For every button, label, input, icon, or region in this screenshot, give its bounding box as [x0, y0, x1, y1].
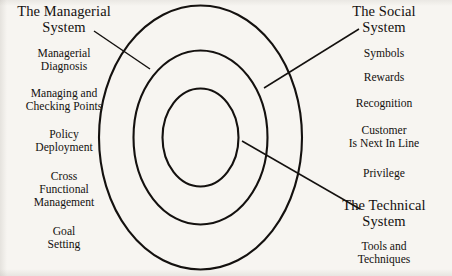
heading-social-system-line1: The Social — [318, 4, 450, 20]
item-policy-deployment-line1: Policy — [0, 128, 130, 141]
heading-technical-system-line1: The Technical — [318, 198, 450, 214]
item-goal-setting-line1: Goal — [0, 225, 130, 238]
middle-ring — [134, 51, 268, 225]
item-privilege-line1: Privilege — [318, 167, 450, 180]
item-privilege: Privilege — [318, 167, 450, 180]
diagram-canvas: The Managerial System Managerial Diagnos… — [0, 0, 452, 276]
item-customer-is-next-in-line: Customer Is Next In Line — [318, 124, 450, 150]
heading-managerial-system-line1: The Managerial — [0, 4, 130, 20]
item-managerial-diagnosis-line1: Managerial — [0, 47, 130, 60]
item-policy-deployment: Policy Deployment — [0, 128, 130, 154]
item-tools-and-techniques-line1: Tools and — [318, 240, 450, 253]
item-goal-setting-line2: Setting — [0, 238, 130, 251]
item-cross-functional-management-line1: Cross — [0, 170, 130, 183]
heading-social-system: The Social System — [318, 4, 450, 35]
heading-social-system-line2: System — [318, 20, 450, 36]
item-managerial-diagnosis: Managerial Diagnosis — [0, 47, 130, 73]
inner-ring — [163, 89, 239, 187]
item-rewards-line1: Rewards — [318, 71, 450, 84]
item-customer-is-next-in-line-line1: Customer — [318, 124, 450, 137]
item-policy-deployment-line2: Deployment — [0, 141, 130, 154]
item-managing-and-checking-points: Managing and Checking Points — [0, 87, 130, 113]
heading-managerial-system-line2: System — [0, 20, 130, 36]
item-recognition-line1: Recognition — [318, 97, 450, 110]
item-symbols: Symbols — [318, 47, 450, 60]
item-cross-functional-management: Cross Functional Management — [0, 170, 130, 209]
item-customer-is-next-in-line-line2: Is Next In Line — [318, 137, 450, 150]
item-recognition: Recognition — [318, 97, 450, 110]
item-managing-and-checking-points-line2: Checking Points — [0, 100, 130, 113]
item-tools-and-techniques-line2: Techniques — [318, 253, 450, 266]
item-cross-functional-management-line2: Functional — [0, 183, 130, 196]
heading-managerial-system: The Managerial System — [0, 4, 130, 35]
item-symbols-line1: Symbols — [318, 47, 450, 60]
item-tools-and-techniques: Tools and Techniques — [318, 240, 450, 266]
item-cross-functional-management-line3: Management — [0, 196, 130, 209]
heading-technical-system: The Technical System — [318, 198, 450, 229]
item-managerial-diagnosis-line2: Diagnosis — [0, 60, 130, 73]
item-goal-setting: Goal Setting — [0, 225, 130, 251]
item-managing-and-checking-points-line1: Managing and — [0, 87, 130, 100]
heading-technical-system-line2: System — [318, 214, 450, 230]
item-rewards: Rewards — [318, 71, 450, 84]
